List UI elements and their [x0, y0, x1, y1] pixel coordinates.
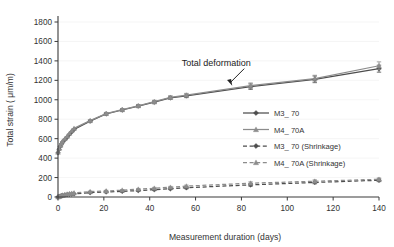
legend-item-label: M3_ 70 (Shrinkage) [274, 142, 341, 151]
x-axis-tick-label: 0 [56, 204, 61, 213]
x-axis-tick-label: 100 [280, 204, 294, 213]
y-axis-tick-label: 0 [47, 193, 52, 202]
x-axis-tick-label: 140 [372, 204, 386, 213]
x-axis-tick-label: 20 [99, 204, 109, 213]
total-strain-line-chart: 020040060080010001200140016001800 020406… [0, 0, 394, 247]
x-axis-tick-label: 120 [326, 204, 340, 213]
x-axis-tick-label: 40 [145, 204, 155, 213]
y-axis-tick-label: 1800 [34, 18, 53, 27]
y-axis-tick-label: 800 [38, 115, 52, 124]
y-axis-tick-label: 1600 [34, 37, 53, 46]
legend-item-label: M3_ 70 [274, 109, 299, 118]
y-axis-tick-label: 1200 [34, 76, 53, 85]
y-axis-tick-label: 200 [38, 174, 52, 183]
y-axis-tick-label: 1400 [34, 57, 53, 66]
y-axis-tick-label: 600 [38, 135, 52, 144]
x-axis-tick-label: 60 [191, 204, 201, 213]
y-axis-tick-label: 1000 [34, 96, 53, 105]
x-axis-title: Measurement duration (days) [169, 232, 281, 242]
x-axis-tick-label: 80 [237, 204, 247, 213]
y-axis-tick-label: 400 [38, 154, 52, 163]
legend-item-label: M4_ 70A (Shrinkage) [274, 159, 346, 168]
legend-item-label: M4_ 70A [274, 126, 305, 135]
y-axis-title: Total strain ( μm/m) [5, 73, 15, 147]
annotation-label: Total deformation [182, 58, 251, 68]
chart-container: 020040060080010001200140016001800 020406… [0, 0, 394, 247]
